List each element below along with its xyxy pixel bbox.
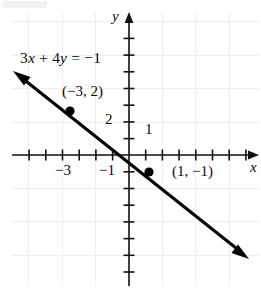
plotted-line — [13, 71, 249, 259]
point-label-1-minus1: (1, −1) — [172, 164, 213, 179]
equation-variable-x: x — [28, 49, 35, 66]
equation-coefficient: 3 — [20, 49, 28, 66]
x-tick-label-minus1: −1 — [99, 163, 115, 178]
x-axis — [12, 151, 259, 160]
y-axis-label: y — [112, 9, 119, 24]
x-tick-label-minus3: −3 — [55, 163, 71, 178]
graph-canvas — [0, 0, 261, 288]
data-point-marker — [144, 167, 153, 176]
x-axis-label: x — [250, 160, 257, 175]
equation-label: 3x + 4y = −1 — [20, 50, 101, 66]
point-label-minus3-2: (−3, 2) — [62, 84, 103, 99]
data-point-marker — [65, 106, 74, 115]
equation-operator-plus: + 4 — [35, 49, 60, 66]
y-tick-label-2: 2 — [105, 112, 113, 127]
y-tick-label-1: 1 — [145, 122, 153, 137]
equation-equals-value: = −1 — [67, 49, 101, 66]
y-axis — [125, 12, 134, 286]
coordinate-graph-figure: 3x + 4y = −1 (−3, 2) (1, −1) −3 −1 2 1 y… — [0, 0, 261, 288]
